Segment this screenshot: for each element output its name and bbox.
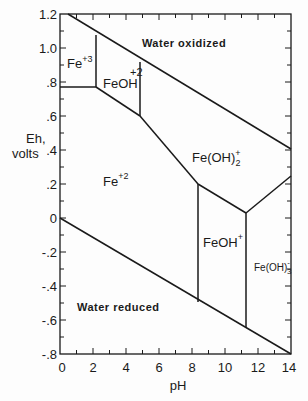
y-tick-label: 1.0 xyxy=(39,41,57,56)
region-label-fe3: Fe+3 xyxy=(67,54,92,71)
y-ticks xyxy=(60,31,291,337)
feoh2plus-fe2-boundary xyxy=(140,116,198,184)
x-tick-label: 8 xyxy=(188,360,195,375)
x-tick-label: 14 xyxy=(282,360,296,375)
region-label-water-oxidized: Water oxidized xyxy=(142,37,226,49)
y-axis-title-volts: volts xyxy=(12,146,39,161)
water-reduction-line xyxy=(60,218,291,354)
x-tick-label: 10 xyxy=(218,360,232,375)
feoh2plus-feoh3minus-boundary xyxy=(246,176,291,213)
x-tick-labels: 0 2 4 6 8 10 12 14 xyxy=(58,360,296,375)
svg-text:FeOH: FeOH xyxy=(103,76,138,91)
region-label-feoh3minus: Fe(OH)-3 xyxy=(254,258,292,276)
y-tick-label: -.6 xyxy=(42,313,57,328)
y-tick-label: -.4 xyxy=(42,279,57,294)
region-label-feoh2plus: Fe(OH)+2 xyxy=(192,148,241,168)
region-label-water-reduced: Water reduced xyxy=(77,301,160,313)
y-axis-title-eh: Eh, xyxy=(26,131,46,146)
y-tick-label: .2 xyxy=(46,177,57,192)
y-tick-label: 1.2 xyxy=(39,7,57,22)
x-tick-label: 2 xyxy=(89,360,96,375)
region-label-fe2: Fe+2 xyxy=(103,171,128,189)
x-tick-label: 6 xyxy=(155,360,162,375)
y-tick-labels: 1.2 1.0 .8 .6 .4 .2 0 -.2 -.4 -.6 -.8 xyxy=(39,7,57,362)
water-oxidation-line xyxy=(68,14,291,149)
x-axis-title: pH xyxy=(170,378,187,393)
y-tick-label: 0 xyxy=(50,211,57,226)
feoh2plus-feohplus-boundary xyxy=(198,184,246,213)
x-tick-label: 0 xyxy=(58,360,65,375)
y-tick-label: .4 xyxy=(46,143,57,158)
region-label-feoh2: +2 FeOH xyxy=(103,66,143,91)
y-tick-label: -.2 xyxy=(42,245,57,260)
y-tick-label: .8 xyxy=(46,75,57,90)
y-tick-label: .6 xyxy=(46,109,57,124)
x-tick-label: 4 xyxy=(122,360,129,375)
region-label-feohplus: FeOH+ xyxy=(203,232,243,250)
y-tick-label: -.8 xyxy=(42,347,57,362)
feoh2-fe2-boundary xyxy=(96,87,140,116)
x-tick-label: 12 xyxy=(251,360,265,375)
pourbaix-diagram: 1.2 1.0 .8 .6 .4 .2 0 -.2 -.4 -.6 -.8 0 … xyxy=(0,0,308,401)
